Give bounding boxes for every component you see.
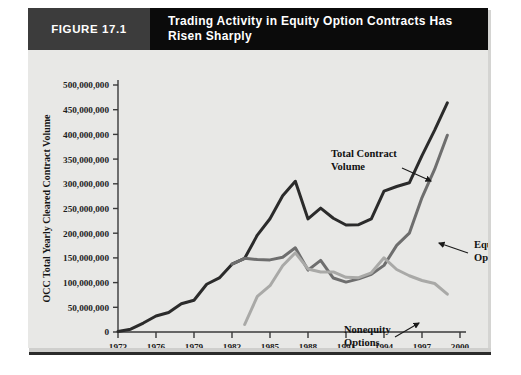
annotation-label-line1: Total Contract [331, 148, 397, 159]
y-axis-tick-label: 300,000,000 [63, 179, 109, 189]
annotation-label-line2: Options [344, 337, 380, 348]
y-axis-tick-label: 400,000,000 [63, 130, 109, 140]
y-axis-tick-label: 100,000,000 [63, 278, 109, 288]
figure-number-label: FIGURE 17.1 [51, 23, 127, 35]
annotation-leader-line [395, 323, 419, 337]
figure-header-bar: FIGURE 17.1 Trading Activity in Equity O… [28, 8, 488, 50]
x-axis-tick-label: 1985 [261, 342, 280, 348]
series-line-2 [245, 253, 448, 325]
y-axis-tick-label: 450,000,000 [63, 105, 109, 115]
figure-root: FIGURE 17.1 Trading Activity in Equity O… [0, 0, 521, 375]
annotation-label-line2: Options [474, 252, 488, 263]
figure-number-box: FIGURE 17.1 [28, 8, 150, 50]
x-axis-tick-label: 1973 [109, 342, 128, 348]
x-axis-tick-label: 2000 [451, 342, 470, 348]
chart-annotations: Total ContractVolumeEquityOptionsNonequi… [331, 148, 488, 348]
y-axis-tick-label: 0 [104, 327, 109, 337]
annotation-leader-line [439, 243, 468, 253]
annotation-label-line1: Equity [474, 239, 488, 250]
figure-bottom-rule [29, 352, 491, 355]
y-axis-tick-label: 50,000,000 [68, 303, 110, 313]
figure-title-text: Trading Activity in Equity Option Contra… [168, 14, 478, 44]
y-axis-tick-label: 250,000,000 [63, 204, 109, 214]
annotation-label-line2: Volume [331, 161, 365, 172]
chart-series [118, 103, 447, 332]
chart-axis-titles: OCC Total Yearly Cleared Contract Volume [41, 114, 52, 303]
figure-right-rule [488, 10, 491, 354]
y-axis-tick-label: 150,000,000 [63, 253, 109, 263]
chart-area: 050,000,000100,000,000150,000,000200,000… [28, 50, 488, 348]
chart-axes: 050,000,000100,000,000150,000,000200,000… [63, 80, 470, 348]
x-axis-tick-label: 1982 [223, 342, 242, 348]
x-axis-tick-label: 1988 [299, 342, 318, 348]
annotation-1: EquityOptions [439, 239, 488, 263]
x-axis-tick-label: 1979 [185, 342, 204, 348]
figure-title-box: Trading Activity in Equity Option Contra… [150, 8, 488, 50]
line-chart: 050,000,000100,000,000150,000,000200,000… [28, 50, 488, 348]
x-axis-tick-label: 1997 [413, 342, 432, 348]
x-axis-tick-label: 1976 [147, 342, 166, 348]
annotation-0: Total ContractVolume [331, 148, 431, 181]
y-axis-tick-label: 350,000,000 [63, 155, 109, 165]
y-axis-tick-label: 500,000,000 [63, 80, 109, 90]
series-line-0 [118, 103, 447, 332]
y-axis-tick-label: 200,000,000 [63, 229, 109, 239]
y-axis-title: OCC Total Yearly Cleared Contract Volume [41, 114, 52, 303]
annotation-label-line1: Nonequity [344, 324, 391, 335]
